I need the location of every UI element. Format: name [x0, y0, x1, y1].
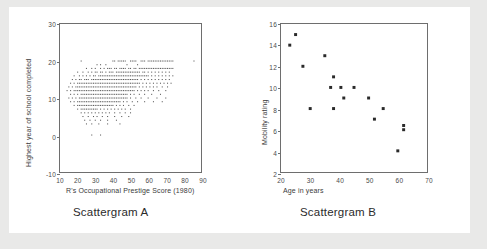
data-point — [135, 61, 136, 62]
data-point — [172, 75, 173, 76]
data-point — [119, 101, 120, 102]
data-point — [84, 109, 85, 110]
x-tick-label: 50 — [366, 177, 374, 184]
data-point — [135, 75, 136, 76]
data-point — [172, 68, 173, 69]
data-point — [118, 72, 119, 73]
data-point — [142, 61, 143, 62]
data-point — [91, 72, 92, 73]
data-point — [123, 101, 124, 102]
data-point — [132, 86, 133, 87]
data-point — [88, 101, 89, 102]
data-point — [125, 86, 126, 87]
data-point — [153, 83, 154, 84]
data-point — [132, 101, 133, 102]
data-point — [162, 68, 163, 69]
data-point — [118, 86, 119, 87]
x-tick-label: 30 — [307, 177, 315, 184]
data-point — [130, 86, 131, 87]
data-point — [82, 105, 83, 106]
data-point — [81, 98, 82, 99]
data-point — [130, 94, 131, 95]
data-point — [86, 79, 87, 80]
data-point — [116, 120, 117, 121]
data-point — [75, 79, 76, 80]
data-point — [98, 75, 99, 76]
data-point — [95, 101, 96, 102]
data-point — [114, 116, 115, 117]
data-point — [102, 75, 103, 76]
data-point — [116, 86, 117, 87]
data-point — [123, 72, 124, 73]
data-point — [116, 83, 117, 84]
data-point — [86, 90, 87, 91]
data-point — [91, 109, 92, 110]
data-point — [111, 79, 112, 80]
data-point — [112, 61, 113, 62]
data-point — [162, 61, 163, 62]
data-point — [329, 86, 332, 89]
data-point — [119, 83, 120, 84]
data-point — [163, 61, 164, 62]
data-point — [88, 116, 89, 117]
data-point — [116, 94, 117, 95]
data-point — [121, 72, 122, 73]
data-point — [125, 109, 126, 110]
data-point — [79, 86, 80, 87]
data-point — [107, 120, 108, 121]
data-point — [109, 75, 110, 76]
data-point — [141, 68, 142, 69]
data-point — [148, 72, 149, 73]
data-point — [88, 90, 89, 91]
data-point — [102, 83, 103, 84]
x-tick-label: 90 — [199, 177, 207, 184]
scattergram-a-y-axis-title: Highest year of school completed — [25, 59, 32, 167]
data-point — [91, 105, 92, 106]
data-point — [128, 72, 129, 73]
data-point — [135, 79, 136, 80]
data-point — [102, 116, 103, 117]
data-point — [88, 112, 89, 113]
data-point — [93, 98, 94, 99]
scattergram-a-x-axis-title: R's Occupational Prestige Score (1980) — [66, 187, 194, 194]
data-point — [114, 79, 115, 80]
data-point — [151, 79, 152, 80]
data-point — [70, 94, 71, 95]
y-tick-mark — [57, 62, 60, 63]
data-point — [97, 105, 98, 106]
data-point — [100, 64, 101, 65]
data-point — [109, 98, 110, 99]
data-point — [100, 75, 101, 76]
data-point — [137, 90, 138, 91]
data-point — [79, 101, 80, 102]
data-point — [134, 105, 135, 106]
data-point — [118, 109, 119, 110]
y-tick-mark — [278, 174, 281, 175]
data-point — [93, 109, 94, 110]
data-point — [84, 98, 85, 99]
data-point — [156, 98, 157, 99]
figure-page: 102030405060708090 -100102030 R's Occupa… — [0, 0, 487, 249]
data-point — [91, 101, 92, 102]
data-point — [171, 83, 172, 84]
data-point — [84, 90, 85, 91]
data-point — [128, 86, 129, 87]
data-point — [100, 68, 101, 69]
data-point — [107, 116, 108, 117]
data-point — [123, 79, 124, 80]
data-point — [148, 75, 149, 76]
data-point — [86, 101, 87, 102]
data-point — [102, 112, 103, 113]
data-point — [93, 83, 94, 84]
data-point — [132, 83, 133, 84]
y-tick-mark — [278, 67, 281, 68]
data-point — [116, 79, 117, 80]
data-point — [102, 72, 103, 73]
data-point — [146, 75, 147, 76]
data-point — [142, 83, 143, 84]
data-point — [104, 90, 105, 91]
x-tick-label: 20 — [74, 177, 82, 184]
data-point — [373, 118, 376, 121]
data-point — [86, 86, 87, 87]
data-point — [339, 86, 342, 89]
